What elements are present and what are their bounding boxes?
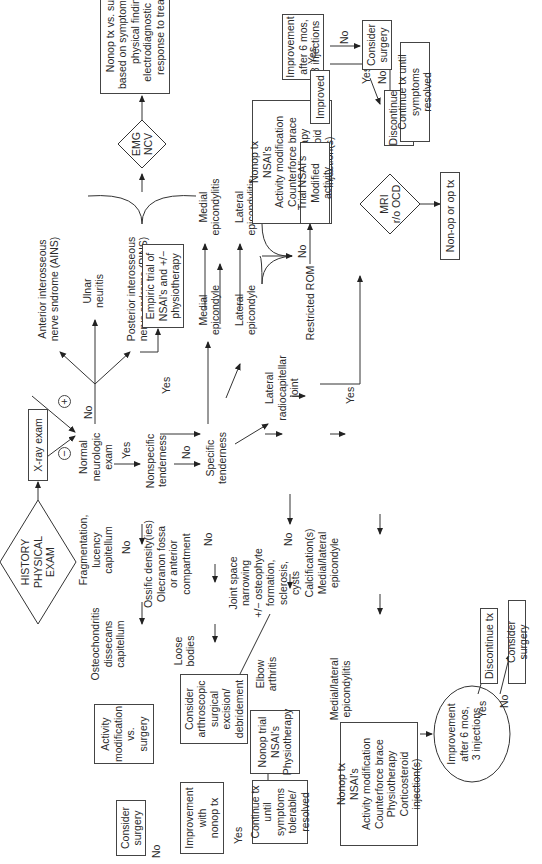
history-physical-exam-decision: HISTORY PHYSICAL EXAM bbox=[16, 512, 60, 612]
ulnar-neuritis-node: Ulnar neuritis bbox=[80, 266, 106, 316]
normal-neurologic-exam: Normal neurologic exam bbox=[76, 422, 116, 492]
consider-surgery-box-3: Consider surgery bbox=[508, 600, 526, 684]
ossific-density: Ossific density(ies) Olecranon fossa or … bbox=[140, 514, 194, 614]
edge-label-yes: Yes bbox=[160, 377, 172, 394]
fragmentation-lucency: Fragmentation, lucency capitellum bbox=[76, 510, 116, 590]
nonop-tx-box-ml: Nonop tx NSAI's Activity modification Co… bbox=[340, 722, 418, 846]
edge-label-no: No bbox=[498, 695, 510, 708]
edge-label-no: No bbox=[296, 245, 308, 258]
nonspecific-tenderness: Nonspecific tenderness bbox=[142, 428, 170, 494]
consider-surgery-box-2: Consider surgery bbox=[116, 800, 146, 856]
continue-tolerable-box: Continue tx until symptoms tolerable/ re… bbox=[252, 780, 308, 844]
edge-label-yes: Yes bbox=[232, 827, 244, 844]
nonop-vs-surgery-box: Nonop tx vs. surgery based on symptom se… bbox=[100, 0, 170, 94]
emg-ncv-decision: EMG NCV bbox=[128, 124, 156, 164]
edge-label-no: No bbox=[338, 31, 350, 44]
joint-space-narrowing: Joint space narrowing +/− osteophyte for… bbox=[226, 538, 302, 628]
negative-sign-icon: − bbox=[58, 447, 71, 460]
medial-lateral-epicondylitis: Medial/lateral epicondylitis bbox=[326, 644, 354, 734]
xray-exam-box: X-ray exam bbox=[28, 409, 48, 481]
mri-decision: MRI r/o OCD bbox=[376, 180, 404, 228]
edge-label-yes: Yes bbox=[344, 387, 356, 404]
empiric-trial-box: Empiric trial of NSAI's and +/− physioth… bbox=[142, 244, 184, 328]
lateral-epicondyle: Lateral epicondyle bbox=[232, 280, 258, 340]
calcification-node: Calcification(s) Medial/lateral epicondy… bbox=[300, 518, 344, 608]
loose-bodies: Loose bodies bbox=[170, 628, 198, 674]
ains-node: Anterior interosseous nerve sndrome (AIN… bbox=[35, 229, 61, 349]
consider-surgery-box: Consider surgery bbox=[362, 20, 392, 70]
osteochondritis-dissecans: Osteochondritis dissecans capitellum bbox=[88, 604, 128, 684]
edge-label-no: No bbox=[376, 71, 388, 84]
activity-modification-box: Activity modification vs. surgery bbox=[94, 704, 154, 764]
edge-label-no: No bbox=[150, 845, 162, 858]
discontinue-tx-box-2: Discontinue tx bbox=[480, 608, 498, 684]
arthroscopic-excision-box: Consider arthroscopic surgical excision/… bbox=[180, 674, 248, 744]
edge-label-no: No bbox=[282, 533, 294, 546]
lateral-radiocapitellar-joint: Lateral radiocapitellar joint bbox=[262, 348, 302, 428]
elbow-arthritis: Elbow arthritis bbox=[252, 644, 280, 704]
edge-label-yes: Yes bbox=[306, 47, 318, 64]
improved-box: Improved bbox=[310, 70, 330, 124]
edge-label-no: No bbox=[180, 446, 192, 459]
medial-epicondyle: Medial epicondyle bbox=[196, 280, 222, 340]
nonop-trial-box: Nonop trial NSAI's Physiotherapy bbox=[250, 710, 300, 774]
specific-tenderness: Specific tenderness bbox=[202, 426, 230, 490]
restricted-rom: Restricted ROM bbox=[300, 262, 320, 344]
edge-label-no: No bbox=[202, 533, 214, 546]
positive-sign-icon: + bbox=[58, 395, 71, 408]
edge-label-yes: Yes bbox=[476, 701, 488, 718]
flowchart: HISTORY PHYSICAL EXAM X-ray exam − + Nor… bbox=[0, 0, 542, 864]
improvement-nonop-box: Improvement with nonop tx bbox=[180, 782, 224, 854]
edge-label-no: No bbox=[82, 406, 94, 419]
trial-nsai-box: Trial NSAI's Modified activity bbox=[300, 142, 330, 224]
edge-label-no: No bbox=[120, 541, 132, 554]
nonop-or-op-box: Non-op or op tx bbox=[440, 172, 460, 260]
continue-tx-box: Continue tx until symptoms resolved bbox=[400, 42, 430, 142]
edge-label-yes: Yes bbox=[120, 442, 132, 459]
medial-epicondylitis: Medial epicondylitis bbox=[196, 172, 222, 242]
